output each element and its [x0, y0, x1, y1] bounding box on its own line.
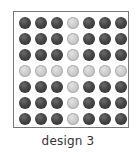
grid-cell	[113, 47, 129, 63]
dark-dot-icon	[99, 49, 111, 61]
dark-dot-icon	[35, 49, 47, 61]
grid-cell	[81, 15, 97, 31]
dark-dot-icon	[99, 33, 111, 45]
light-dot-icon	[67, 17, 79, 29]
dark-dot-icon	[19, 97, 31, 109]
grid-cell	[113, 95, 129, 111]
grid-cell	[113, 79, 129, 95]
light-dot-icon	[67, 113, 79, 125]
dark-dot-icon	[19, 113, 31, 125]
dark-dot-icon	[35, 81, 47, 93]
grid-cell	[65, 95, 81, 111]
grid-cell	[17, 31, 33, 47]
dark-dot-icon	[99, 81, 111, 93]
grid-cell	[49, 95, 65, 111]
grid-cell	[33, 111, 49, 127]
dark-dot-icon	[51, 33, 63, 45]
grid-cell	[65, 111, 81, 127]
dark-dot-icon	[19, 33, 31, 45]
grid-cell	[97, 15, 113, 31]
grid-cell	[113, 31, 129, 47]
grid-cell	[33, 31, 49, 47]
grid-cell	[65, 15, 81, 31]
dark-dot-icon	[99, 17, 111, 29]
grid-cell	[97, 79, 113, 95]
grid-cell	[33, 63, 49, 79]
light-dot-icon	[115, 65, 127, 77]
dark-dot-icon	[99, 97, 111, 109]
dark-dot-icon	[83, 81, 95, 93]
dark-dot-icon	[83, 113, 95, 125]
dark-dot-icon	[35, 113, 47, 125]
grid-cell	[17, 63, 33, 79]
light-dot-icon	[99, 65, 111, 77]
grid-cell	[49, 31, 65, 47]
grid-cell	[113, 15, 129, 31]
grid-cell	[49, 111, 65, 127]
dark-dot-icon	[19, 81, 31, 93]
grid-cell	[81, 63, 97, 79]
light-dot-icon	[67, 97, 79, 109]
dark-dot-icon	[35, 33, 47, 45]
light-dot-icon	[67, 49, 79, 61]
grid-cell	[81, 111, 97, 127]
dark-dot-icon	[115, 81, 127, 93]
grid-cell	[113, 111, 129, 127]
grid-cell	[17, 79, 33, 95]
light-dot-icon	[67, 33, 79, 45]
grid-cell	[65, 63, 81, 79]
dot-grid	[17, 15, 129, 127]
grid-cell	[81, 79, 97, 95]
dark-dot-icon	[99, 113, 111, 125]
dark-dot-icon	[115, 17, 127, 29]
dark-dot-icon	[83, 97, 95, 109]
grid-cell	[49, 79, 65, 95]
grid-cell	[17, 15, 33, 31]
design-caption: design 3	[0, 134, 136, 148]
grid-cell	[81, 31, 97, 47]
dark-dot-icon	[115, 49, 127, 61]
light-dot-icon	[67, 81, 79, 93]
grid-cell	[65, 79, 81, 95]
dark-dot-icon	[51, 81, 63, 93]
grid-cell	[49, 63, 65, 79]
grid-cell	[97, 31, 113, 47]
grid-cell	[49, 15, 65, 31]
grid-cell	[65, 47, 81, 63]
light-dot-icon	[51, 65, 63, 77]
dark-dot-icon	[35, 17, 47, 29]
dark-dot-icon	[51, 97, 63, 109]
grid-cell	[65, 31, 81, 47]
grid-cell	[17, 111, 33, 127]
dark-dot-icon	[35, 97, 47, 109]
grid-cell	[97, 63, 113, 79]
light-dot-icon	[67, 65, 79, 77]
grid-cell	[33, 95, 49, 111]
dark-dot-icon	[83, 33, 95, 45]
dark-dot-icon	[83, 17, 95, 29]
dark-dot-icon	[51, 17, 63, 29]
dark-dot-icon	[19, 17, 31, 29]
design-frame	[13, 11, 129, 128]
dark-dot-icon	[83, 49, 95, 61]
dark-dot-icon	[115, 97, 127, 109]
grid-cell	[113, 63, 129, 79]
grid-cell	[17, 95, 33, 111]
grid-cell	[49, 47, 65, 63]
grid-cell	[97, 95, 113, 111]
light-dot-icon	[35, 65, 47, 77]
grid-cell	[33, 47, 49, 63]
grid-cell	[17, 47, 33, 63]
dark-dot-icon	[115, 33, 127, 45]
grid-cell	[97, 47, 113, 63]
dark-dot-icon	[51, 49, 63, 61]
grid-cell	[81, 95, 97, 111]
light-dot-icon	[83, 65, 95, 77]
grid-cell	[97, 111, 113, 127]
dark-dot-icon	[115, 113, 127, 125]
grid-cell	[33, 79, 49, 95]
grid-cell	[33, 15, 49, 31]
dark-dot-icon	[19, 49, 31, 61]
dark-dot-icon	[51, 113, 63, 125]
grid-cell	[81, 47, 97, 63]
